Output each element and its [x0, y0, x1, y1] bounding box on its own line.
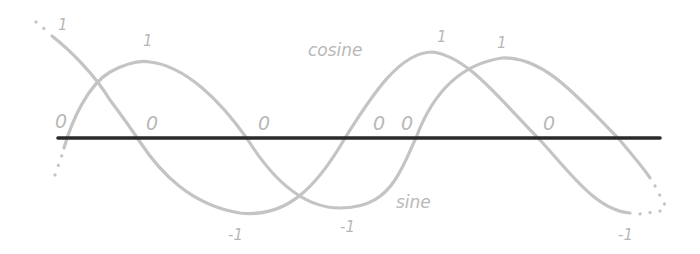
zero-label: 0 [543, 112, 555, 134]
zero-label: 0 [373, 112, 385, 134]
cosine-label: cosine [308, 40, 363, 60]
cosine-dotted-end [640, 210, 668, 214]
zero-label: 0 [146, 112, 158, 134]
peak-label: 1 [497, 34, 507, 52]
sine-dotted-start [55, 155, 62, 175]
zero-label: 0 [401, 112, 413, 134]
peak-label: 1 [437, 28, 447, 46]
cosine-dotted-start [36, 22, 48, 32]
peak-label: 1 [58, 16, 68, 34]
zero-label: 0 [55, 110, 67, 132]
trough-label: -1 [618, 226, 633, 244]
zero-label: 0 [258, 112, 270, 134]
sine-dotted-end [655, 186, 665, 205]
trough-label: -1 [228, 226, 243, 244]
peak-label: 1 [143, 32, 153, 50]
sine-label: sine [396, 192, 431, 212]
sine-cosine-diagram: 1 1 1 1 -1 -1 -1 0 0 0 0 0 0 cosine sine [0, 0, 700, 254]
trough-label: -1 [340, 218, 355, 236]
